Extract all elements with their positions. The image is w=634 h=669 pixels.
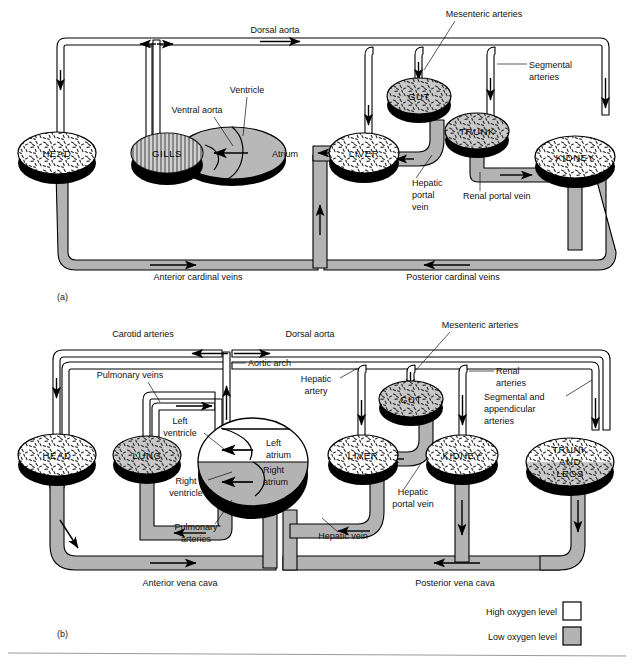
organ-liver-b[interactable]: LIVER <box>328 435 398 485</box>
label-hepatic-artery-b-l2: artery <box>304 386 328 396</box>
organ-label-liver-a: LIVER <box>349 148 379 159</box>
organ-label-trunk-a: TRUNK <box>459 126 495 137</box>
label-atrium-a: Atrium <box>272 149 298 159</box>
vessel-dorsal-aorta-a <box>57 38 609 152</box>
label-mesenteric-arteries-b: Mesenteric arteries <box>442 320 519 330</box>
vessel-posterior-vena-cava-riser-b <box>283 510 297 570</box>
organ-label-head-a: HEAD <box>43 148 72 159</box>
label-renal-portal-a: Renal portal vein <box>463 191 531 201</box>
label-right-ventricle-b-l1: Right <box>175 476 197 486</box>
label-dorsal-aorta-b: Dorsal aorta <box>285 329 334 339</box>
label-segmental-b-l1: Segmental and <box>484 392 545 402</box>
label-left-ventricle-b-l2: ventricle <box>163 428 197 438</box>
organ-lung-b[interactable]: LUNG <box>113 436 181 484</box>
organ-label-trunk-b-l2: AND <box>559 456 581 467</box>
legend-label-high-oxygen: High oxygen level <box>486 607 557 617</box>
panel-label-b: (b) <box>57 629 68 639</box>
label-segmental-b-l2: appendicular <box>484 404 536 414</box>
label-segmental-arteries-a-l2: arteries <box>529 72 560 82</box>
label-pulmonary-arteries-b-l1: Pulmonary <box>174 522 218 532</box>
organ-head-b[interactable]: HEAD <box>18 434 96 486</box>
organ-gut-a[interactable]: GUT <box>387 78 451 123</box>
label-hepatic-portal-a-l3: vein <box>412 202 429 212</box>
label-posterior-cardinal-a: Posterior cardinal veins <box>406 272 500 282</box>
label-pulmonary-veins-b: Pulmonary veins <box>97 370 164 380</box>
label-ventricle-a: Ventricle <box>230 85 265 95</box>
organ-label-gut-a: GUT <box>408 91 430 102</box>
label-left-atrium-b-l2: atrium <box>266 450 291 460</box>
circulation-figure: HEAD GILLS LIVER GUT <box>0 0 634 669</box>
label-segmental-arteries-a-l1: Segmental <box>529 60 572 70</box>
panel-b: HEAD LUNG LIVER GUT KIDNEY <box>18 320 614 639</box>
organ-gut-b[interactable]: GUT <box>379 381 443 426</box>
label-aortic-arch-b: Aortic arch <box>248 358 291 368</box>
vessel-to-liver-a <box>365 47 373 145</box>
label-carotid-arteries-b: Carotid arteries <box>112 329 174 339</box>
organ-head-a[interactable]: HEAD <box>18 132 96 184</box>
label-ventral-aorta-a: Ventral aorta <box>171 105 222 115</box>
panel-label-a: (a) <box>57 292 68 302</box>
label-hepatic-vein-b: Hepatic vein <box>318 531 368 541</box>
label-anterior-cardinal-a: Anterior cardinal veins <box>153 272 243 282</box>
organ-kidney-b[interactable]: KIDNEY <box>426 435 498 485</box>
label-pulmonary-arteries-b-l2: arteries <box>181 534 212 544</box>
label-left-ventricle-b-l1: Left <box>172 416 188 426</box>
label-renal-arteries-b-l2: arteries <box>496 378 527 388</box>
legend-swatch-high-oxygen <box>563 602 581 620</box>
label-posterior-vena-cava-b: Posterior vena cava <box>415 578 495 588</box>
organ-trunk-and-legs-b[interactable]: TRUNK AND LEGS <box>526 438 614 496</box>
panel-a-artery-arrows <box>61 42 606 126</box>
organ-trunk-a[interactable]: TRUNK <box>445 113 509 158</box>
label-right-atrium-b-l1: Right <box>263 465 285 475</box>
label-hepatic-portal-b-l2: portal vein <box>392 499 434 509</box>
panel-a-arteries <box>57 38 609 152</box>
label-right-ventricle-b-l2: ventricle <box>169 488 203 498</box>
label-hepatic-portal-b-l1: Hepatic <box>398 487 429 497</box>
label-right-atrium-b-l2: atrium <box>263 477 288 487</box>
organ-label-lung-b: LUNG <box>133 450 162 461</box>
label-left-atrium-b-l1: Left <box>266 438 282 448</box>
vessel-posterior-vena-cava-b <box>283 556 560 570</box>
organ-label-kidney-a: KIDNEY <box>556 152 595 163</box>
organ-label-gut-b: GUT <box>400 394 422 405</box>
label-segmental-b-l3: arteries <box>484 416 515 426</box>
organ-liver-a[interactable]: LIVER <box>329 133 399 183</box>
organ-heart-b[interactable] <box>198 418 308 519</box>
label-hepatic-artery-b-l1: Hepatic <box>301 374 332 384</box>
legend: High oxygen level Low oxygen level <box>486 602 581 645</box>
vessel-ventral-aorta-riser-a <box>153 40 160 145</box>
vessel-gill-efferent-a <box>146 46 152 138</box>
label-dorsal-aorta-a: Dorsal aorta <box>250 25 299 35</box>
label-hepatic-portal-a-l1: Hepatic <box>412 178 443 188</box>
label-mesenteric-arteries-a: Mesenteric arteries <box>446 9 523 19</box>
organ-label-trunk-b-l3: LEGS <box>556 468 584 479</box>
figure-page: HEAD GILLS LIVER GUT <box>0 0 634 669</box>
label-anterior-vena-cava-b: Anterior vena cava <box>142 578 217 588</box>
organ-gills-a[interactable]: GILLS <box>131 133 203 185</box>
panel-a-veins <box>50 120 616 270</box>
label-renal-arteries-b-l1: Renal <box>496 366 520 376</box>
organ-label-liver-b: LIVER <box>348 450 378 461</box>
vessel-anterior-cardinal-a <box>56 172 318 270</box>
leader-segmental-b <box>566 380 592 396</box>
organ-kidney-a[interactable]: KIDNEY <box>535 136 615 188</box>
organ-label-head-b: HEAD <box>43 450 72 461</box>
organ-label-gills-a: GILLS <box>152 148 182 159</box>
legend-label-low-oxygen: Low oxygen level <box>488 632 557 642</box>
bottom-rule <box>8 653 626 656</box>
organ-label-kidney-b: KIDNEY <box>443 450 482 461</box>
panel-a: HEAD GILLS LIVER GUT <box>18 9 616 302</box>
organ-label-trunk-b-l1: TRUNK <box>552 444 588 455</box>
label-hepatic-portal-a-l2: portal <box>412 190 435 200</box>
legend-swatch-low-oxygen <box>563 627 581 645</box>
